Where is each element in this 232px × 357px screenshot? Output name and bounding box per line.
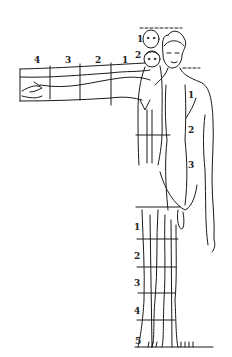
arm-label-4: 4 <box>34 55 40 65</box>
leg-label-4: 4 <box>134 306 140 316</box>
torso-label-3: 3 <box>188 160 194 170</box>
arm-label-1: 1 <box>122 55 128 65</box>
leg-label-3: 3 <box>134 278 140 288</box>
proportion-diagram: 4 3 2 1 1 2 1 2 3 1 2 3 4 5 <box>0 0 232 357</box>
arm-label-3: 3 <box>65 55 71 65</box>
torso-label-1: 1 <box>188 90 194 100</box>
head-label-2: 2 <box>135 50 141 60</box>
adult-head <box>162 31 185 68</box>
leg-label-2: 2 <box>134 251 140 261</box>
hand <box>22 86 42 98</box>
leg-label-5: 5 <box>135 336 141 346</box>
torso-label-2: 2 <box>188 125 194 135</box>
adult-hair <box>164 41 184 46</box>
head-label-1: 1 <box>137 34 143 44</box>
child-body-left <box>138 67 145 165</box>
arm-label-2: 2 <box>95 55 101 65</box>
adult-groin <box>177 210 183 229</box>
leg-label-1: 1 <box>134 222 140 232</box>
infant-head-1 <box>143 30 159 48</box>
